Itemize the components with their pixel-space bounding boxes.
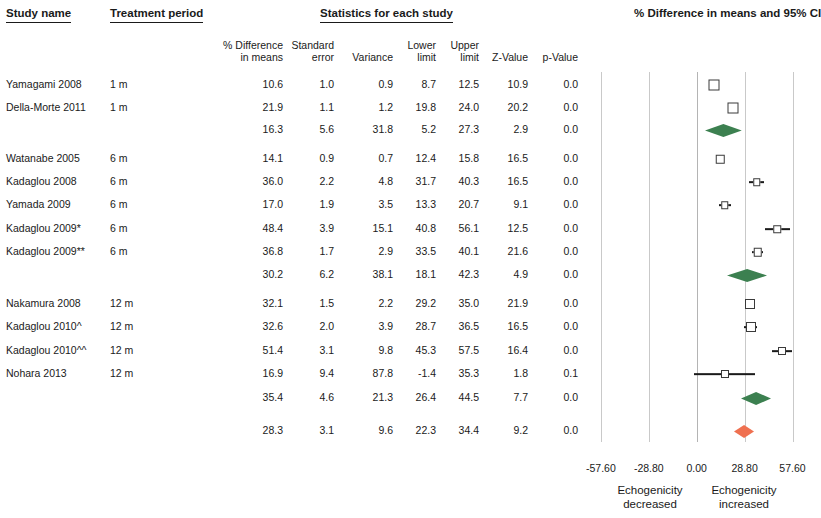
overall-diamond <box>734 425 754 438</box>
table-row: Kadaglou 2009**6 m36.81.72.933.540.121.6… <box>0 241 590 263</box>
cell-treatment-period: 6 m <box>110 246 128 257</box>
subtotal-diamond <box>705 124 742 137</box>
study-marker-square <box>721 370 729 378</box>
table-row: 30.26.238.118.142.34.90.0 <box>0 264 590 286</box>
cell-p-value: 0.0 <box>458 199 578 210</box>
cell-p-value: 0.0 <box>458 246 578 257</box>
cell-study-name: Kadaglou 2009* <box>6 223 81 234</box>
study-marker-square <box>753 178 761 186</box>
study-marker-square <box>728 103 739 114</box>
cell-p-value: 0.0 <box>458 153 578 164</box>
cell-p-value: 0.0 <box>458 102 578 113</box>
cell-treatment-period: 1 m <box>110 102 128 113</box>
cell-treatment-period: 12 m <box>110 368 133 379</box>
table-row: 35.44.621.326.444.57.70.0 <box>0 387 590 409</box>
axis-tick-3: 28.80 <box>731 462 757 474</box>
axis-tick-1: -28.80 <box>634 462 664 474</box>
cell-study-name: Kadaglou 2009** <box>6 246 85 257</box>
axis-note-right-line2: increased <box>711 498 776 512</box>
cell-study-name: Kadaglou 2010^ <box>6 321 82 332</box>
table-row: Yamagami 20081 m10.61.00.98.712.510.90.0 <box>0 74 590 96</box>
gridline-1 <box>649 72 650 442</box>
study-marker-square <box>773 225 781 233</box>
axis-note-left: Echogenicity decreased <box>617 484 682 511</box>
table-row: Kadaglou 20086 m36.02.24.831.740.316.50.… <box>0 171 590 193</box>
axis-note-left-line1: Echogenicity <box>617 484 682 498</box>
study-marker-square <box>709 80 720 91</box>
gridline-2 <box>697 72 698 442</box>
cell-study-name: Watanabe 2005 <box>6 153 80 164</box>
axis-note-right: Echogenicity increased <box>711 484 776 511</box>
cell-p-value: 0.0 <box>458 269 578 280</box>
cell-p-value: 0.0 <box>458 298 578 309</box>
column-header-line1 <box>408 40 578 52</box>
ci-whisker-left <box>694 373 721 375</box>
axis-note-right-line1: Echogenicity <box>711 484 776 498</box>
cell-study-name: Kadaglou 2008 <box>6 176 77 187</box>
gridline-3 <box>745 72 746 442</box>
column-header-line2: p-Value <box>408 52 578 64</box>
axis-tick-2: 0.00 <box>686 462 706 474</box>
cell-study-name: Della-Morte 2011 <box>6 102 86 113</box>
study-marker-square <box>746 322 756 332</box>
cell-treatment-period: 6 m <box>110 153 128 164</box>
study-marker-square <box>754 248 763 257</box>
ci-whisker-right <box>785 350 792 352</box>
plot-title-line1: % Difference in <box>634 7 717 19</box>
cell-treatment-period: 12 m <box>110 298 133 309</box>
header-study-name: Study name <box>6 8 71 23</box>
table-row: Kadaglou 2010^12 m32.62.03.928.736.516.5… <box>0 316 590 338</box>
cell-treatment-period: 1 m <box>110 79 128 90</box>
cell-study-name: Yamada 2009 <box>6 199 71 210</box>
plot-title: % Difference in means and 95% CI <box>634 6 821 21</box>
plot-title-line2: means and 95% CI <box>720 7 821 19</box>
cell-p-value: 0.0 <box>458 124 578 135</box>
table-row: Yamada 20096 m17.01.93.513.320.79.10.0 <box>0 194 590 216</box>
gridline-4 <box>793 72 794 442</box>
table-row: Nakamura 200812 m32.11.52.229.235.021.90… <box>0 293 590 315</box>
cell-treatment-period: 6 m <box>110 199 128 210</box>
cell-study-name: Kadaglou 2010^^ <box>6 345 87 356</box>
cell-p-value: 0.1 <box>458 368 578 379</box>
cell-p-value: 0.0 <box>458 345 578 356</box>
cell-treatment-period: 6 m <box>110 176 128 187</box>
gridline-0 <box>601 72 602 442</box>
cell-study-name: Nohara 2013 <box>6 368 67 379</box>
table-row: Kadaglou 2009*6 m48.43.915.140.856.112.5… <box>0 218 590 240</box>
header-treatment-period: Treatment period <box>110 8 203 23</box>
cell-p-value: 0.0 <box>458 176 578 187</box>
header-statistics-group: Statistics for each study <box>320 8 453 23</box>
cell-treatment-period: 12 m <box>110 321 133 332</box>
subtotal-diamond <box>727 269 767 282</box>
forest-plot-panel: % Difference in means and 95% CI -57.60-… <box>590 0 809 518</box>
table-row: Della-Morte 20111 m21.91.11.219.824.020.… <box>0 97 590 119</box>
axis-tick-4: 57.60 <box>779 462 805 474</box>
study-marker-square <box>716 155 725 164</box>
subtotal-diamond <box>741 392 771 405</box>
cell-p-value: 0.0 <box>458 223 578 234</box>
table-row: 28.33.19.622.334.49.20.0 <box>0 420 590 442</box>
study-marker-square <box>721 201 729 209</box>
cell-study-name: Nakamura 2008 <box>6 298 81 309</box>
ci-whisker-right <box>728 373 756 375</box>
study-marker-square <box>745 299 755 309</box>
table-row: Nohara 201312 m16.99.487.8-1.435.31.80.1 <box>0 363 590 385</box>
table-row: 16.35.631.85.227.32.90.0 <box>0 119 590 141</box>
cell-p-value: 0.0 <box>458 321 578 332</box>
column-header-6: p-Value <box>408 40 578 63</box>
study-marker-square <box>778 347 786 355</box>
axis-tick-0: -57.60 <box>586 462 616 474</box>
cell-treatment-period: 12 m <box>110 345 133 356</box>
ci-whisker-right <box>780 228 790 230</box>
cell-p-value: 0.0 <box>458 392 578 403</box>
table-row: Watanabe 20056 m14.10.90.712.415.816.50.… <box>0 148 590 170</box>
cell-p-value: 0.0 <box>458 79 578 90</box>
cell-p-value: 0.0 <box>458 425 578 436</box>
cell-treatment-period: 6 m <box>110 223 128 234</box>
cell-study-name: Yamagami 2008 <box>6 79 82 90</box>
table-row: Kadaglou 2010^^12 m51.43.19.845.357.516.… <box>0 340 590 362</box>
axis-note-left-line2: decreased <box>617 498 682 512</box>
